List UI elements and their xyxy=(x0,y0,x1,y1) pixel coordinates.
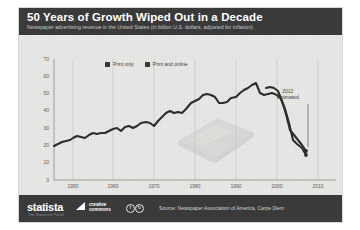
y-tick-60: 60 xyxy=(37,73,49,79)
statista-tagline: The Statistics Portal xyxy=(28,213,64,217)
y-tick-30: 30 xyxy=(37,125,49,131)
chart-footer: statista The Statistics Portal creative … xyxy=(19,195,342,222)
y-tick-50: 50 xyxy=(37,90,49,96)
infographic-card: 50 Years of Growth Wiped Out in a Decade… xyxy=(19,8,342,222)
cc-by-icon: i xyxy=(126,204,135,213)
annotation-2012-estimated: 2012 estimated xyxy=(277,88,299,101)
chart-subtitle: Newspaper advertising revenue in the Uni… xyxy=(27,24,253,30)
legend-label-print-only: Print only xyxy=(113,61,134,67)
annotation-note: estimated xyxy=(277,94,299,100)
legend-swatch-print-only xyxy=(105,62,110,67)
x-tick-2000: 2000 xyxy=(264,183,290,189)
y-tick-70: 70 xyxy=(37,56,49,62)
statista-logo[interactable]: statista xyxy=(27,201,63,213)
chart-header: 50 Years of Growth Wiped Out in a Decade… xyxy=(19,8,342,35)
legend-swatch-print-and-online xyxy=(145,62,150,67)
source-credit: Source: Newspaper Association of America… xyxy=(159,205,284,211)
y-tick-0: 0 xyxy=(37,177,49,183)
y-tick-20: 20 xyxy=(37,142,49,148)
y-tick-10: 10 xyxy=(37,159,49,165)
chart-legend: Print only Print and online xyxy=(105,61,188,67)
y-tick-40: 40 xyxy=(37,107,49,113)
gridlines xyxy=(73,59,318,180)
x-tick-2010: 2010 xyxy=(305,183,331,189)
x-tick-1990: 1990 xyxy=(223,183,249,189)
x-tick-1970: 1970 xyxy=(141,183,167,189)
legend-label-print-and-online: Print and online xyxy=(153,61,188,67)
chart-plot-area: 70 60 50 40 30 20 10 0 1950 1960 1970 19… xyxy=(19,35,342,195)
x-tick-1980: 1980 xyxy=(182,183,208,189)
x-tick-1950: 1950 xyxy=(60,183,86,189)
endpoint-print-only xyxy=(304,153,308,157)
cc-sharealike-icon: ↻ xyxy=(135,204,144,213)
x-tick-1960: 1960 xyxy=(100,183,126,189)
page-title: 50 Years of Growth Wiped Out in a Decade xyxy=(27,11,263,23)
creative-commons-logo: creative commons xyxy=(89,203,111,213)
line-chart xyxy=(19,35,342,195)
statista-mark-icon xyxy=(76,202,85,210)
legend-item-print-only[interactable]: Print only xyxy=(105,61,134,67)
series-print-only xyxy=(54,83,306,155)
legend-item-print-and-online[interactable]: Print and online xyxy=(145,61,188,67)
cc-line-2: commons xyxy=(89,208,111,213)
